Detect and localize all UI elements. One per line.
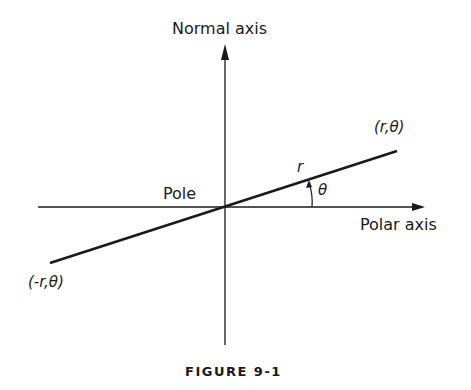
polar-axis-label: Polar axis bbox=[360, 217, 437, 233]
figure-caption: FIGURE 9-1 bbox=[185, 364, 282, 379]
angle-label: θ bbox=[318, 183, 327, 198]
normal-axis-arrowhead bbox=[221, 44, 229, 60]
normal-axis-label: Normal axis bbox=[172, 21, 267, 37]
pole-label: Pole bbox=[163, 186, 196, 202]
point-positive-label: (r,θ) bbox=[374, 120, 404, 135]
polar-diagram bbox=[0, 0, 471, 390]
point-negative-label: (-r,θ) bbox=[28, 275, 64, 290]
radius-label: r bbox=[297, 160, 303, 175]
polar-axis-arrowhead bbox=[412, 203, 425, 211]
